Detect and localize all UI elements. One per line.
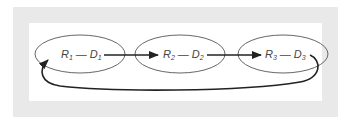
node-label-3: R3—D3 bbox=[265, 48, 306, 61]
node-label-2: R2—D2 bbox=[163, 48, 204, 61]
cycle-diagram: R1—D1 R2—D2 R3—D3 bbox=[0, 0, 361, 125]
node-label-1: R1—D1 bbox=[61, 48, 102, 61]
